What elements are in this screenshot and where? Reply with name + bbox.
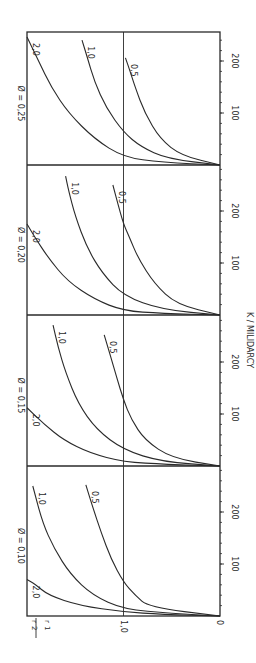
x-tick-label: 100 (230, 255, 239, 270)
chart: 100200Ø = 0,102,01,00,5100200Ø = 0,152,0… (0, 0, 256, 663)
labels-layer: 100200Ø = 0,102,01,00,5100200Ø = 0,152,0… (16, 43, 254, 638)
curve-0-5 (86, 485, 220, 616)
curve-label: 2,0 (31, 414, 40, 427)
curve-label: 0,5 (108, 341, 117, 354)
y-label-numerator-sub: 2 (30, 626, 38, 630)
x-axis-label: K / MILIDARCY (245, 312, 254, 368)
panel-title: Ø = 0,10 (16, 528, 26, 564)
curve-label: 2,0 (31, 43, 40, 56)
y-label-denominator-sub: 1 (43, 626, 51, 630)
curve-1-0 (66, 176, 220, 315)
x-tick-label: 200 (230, 203, 239, 218)
curve-label: 0,5 (129, 64, 138, 77)
x-tick-label: 100 (230, 406, 239, 421)
x-tick-label: 100 (230, 105, 239, 120)
curve-1-0 (33, 486, 220, 616)
panel-title: Ø = 0,20 (16, 227, 26, 263)
x-tick-label: 100 (230, 556, 239, 571)
x-tick-label: 200 (230, 354, 239, 369)
curve-label: 1,0 (57, 331, 66, 344)
y-label-denominator: r (43, 620, 51, 623)
curve-1-0 (82, 40, 220, 165)
plot-frame (27, 32, 224, 616)
panel-title: Ø = 0,15 (16, 378, 26, 414)
curve-0-5 (104, 335, 220, 466)
curve-label: 0,5 (117, 191, 126, 204)
panel-title: Ø = 0,25 (16, 86, 26, 122)
curve-0-5 (125, 58, 220, 165)
curve-label: 0,5 (90, 491, 99, 504)
y-tick-label: 1,0 (119, 620, 128, 633)
x-tick-label: 200 (230, 53, 239, 68)
curve-1-0 (53, 325, 220, 466)
curve-label: 1,0 (86, 46, 95, 59)
curve-label: 1,0 (37, 492, 46, 505)
y-tick-label: 0 (215, 620, 224, 625)
x-tick-label: 200 (230, 504, 239, 519)
curve-label: 1,0 (70, 182, 79, 195)
curve-0-5 (113, 185, 220, 315)
curve-label: 2,0 (31, 230, 40, 243)
curve-label: 2,0 (31, 586, 40, 599)
y-label-numerator: r (30, 620, 38, 623)
